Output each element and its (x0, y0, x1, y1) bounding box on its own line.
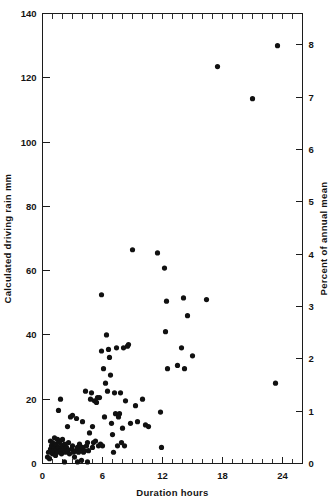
data-point (123, 398, 128, 403)
data-point (175, 363, 180, 368)
data-point (163, 329, 168, 334)
data-point (85, 459, 90, 464)
data-point (181, 295, 186, 300)
data-point (74, 416, 79, 421)
y-axis-title: Calculated driving rain mm (2, 174, 13, 304)
data-point (99, 348, 104, 353)
data-point (58, 397, 63, 402)
data-point (162, 265, 167, 270)
data-point (179, 345, 184, 350)
data-point (140, 397, 145, 402)
data-point (47, 456, 52, 461)
data-point (135, 419, 140, 424)
data-point (93, 438, 98, 443)
data-point (80, 419, 85, 424)
data-point (104, 332, 109, 337)
plot-canvas: 06121824020406080100120140012345678 Dura… (0, 0, 334, 502)
data-point (65, 424, 70, 429)
data-point (99, 292, 104, 297)
data-point (182, 366, 187, 371)
data-point (60, 437, 65, 442)
y2-tick-label: 2 (309, 353, 314, 364)
data-point (117, 411, 122, 416)
x-tick-label: 18 (217, 470, 228, 481)
data-point (164, 299, 169, 304)
y-tick-label: 120 (21, 72, 37, 83)
data-point (106, 347, 111, 352)
y2-tick-label: 1 (309, 406, 315, 417)
data-point (126, 342, 131, 347)
data-point (83, 389, 88, 394)
data-point (109, 421, 114, 426)
data-point (165, 366, 170, 371)
data-point (250, 96, 255, 101)
data-point (107, 355, 112, 360)
y2-tick-label: 5 (309, 196, 315, 207)
x-tick-label: 24 (277, 470, 288, 481)
y-tick-label: 60 (26, 265, 37, 276)
data-point (110, 432, 115, 437)
data-point (101, 366, 106, 371)
data-point (133, 403, 138, 408)
data-point (100, 443, 105, 448)
data-point (155, 250, 160, 255)
y-tick-label: 0 (31, 458, 36, 469)
data-point (122, 443, 127, 448)
data-point (120, 426, 125, 431)
x-tick-label: 6 (100, 470, 105, 481)
data-point (114, 345, 119, 350)
y2-axis-title: Percent of annual mean (318, 182, 329, 296)
data-point (62, 459, 67, 464)
data-point (111, 450, 116, 455)
data-point (118, 390, 123, 395)
data-point (87, 430, 92, 435)
data-point (190, 353, 195, 358)
y2-tick-label: 6 (309, 144, 314, 155)
data-point (79, 458, 84, 463)
tick-marks (43, 14, 303, 464)
data-point (90, 445, 95, 450)
data-point (128, 421, 133, 426)
data-point (56, 408, 61, 413)
y2-tick-label: 4 (309, 249, 315, 260)
data-point (97, 395, 102, 400)
x-tick-label: 0 (40, 470, 45, 481)
data-point (185, 313, 190, 318)
y-tick-label: 80 (26, 201, 37, 212)
data-point (90, 424, 95, 429)
y-tick-label: 20 (26, 394, 37, 405)
data-point (102, 414, 107, 419)
data-points (45, 43, 280, 464)
data-point (146, 424, 151, 429)
scatter-plot-figure: 06121824020406080100120140012345678 Dura… (0, 0, 334, 502)
axis-frame (43, 14, 303, 464)
data-point (85, 440, 90, 445)
data-point (105, 389, 110, 394)
y-tick-label: 140 (21, 8, 37, 19)
data-point (273, 381, 278, 386)
x-axis-title: Duration hours (136, 487, 208, 498)
data-point (275, 43, 280, 48)
y-tick-label: 40 (26, 329, 37, 340)
data-point (89, 390, 94, 395)
y2-tick-label: 3 (309, 301, 314, 312)
data-point (215, 64, 220, 69)
y2-tick-label: 0 (309, 458, 314, 469)
data-point (112, 390, 117, 395)
data-point (159, 445, 164, 450)
data-point (108, 373, 113, 378)
x-tick-label: 12 (157, 470, 168, 481)
tick-labels: 06121824020406080100120140012345678 (21, 8, 315, 481)
data-point (103, 381, 108, 386)
data-point (204, 297, 209, 302)
y2-tick-label: 7 (309, 92, 314, 103)
data-point (70, 443, 75, 448)
data-point (94, 400, 99, 405)
plot-frame (43, 14, 303, 464)
y2-tick-label: 8 (309, 39, 314, 50)
data-point (158, 409, 163, 414)
data-point (130, 247, 135, 252)
data-point (72, 454, 77, 459)
y-tick-label: 100 (21, 137, 37, 148)
